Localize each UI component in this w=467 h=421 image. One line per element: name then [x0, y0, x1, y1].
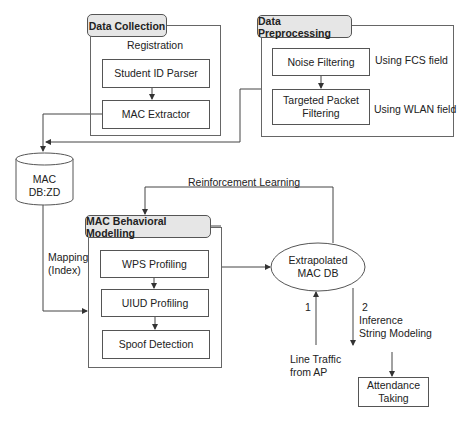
spoof-detection-box: Spoof Detection: [102, 330, 210, 359]
wlan-annotation: Using WLAN field: [374, 103, 456, 116]
mapping-label: Mapping (Index): [48, 251, 88, 277]
attendance-taking-box: Attendance Taking: [358, 377, 429, 407]
mac-behavioral-title: MAC Behavioral Modelling: [85, 215, 211, 238]
student-id-parser-box: Student ID Parser: [102, 59, 210, 88]
fcs-annotation: Using FCS field: [375, 54, 448, 67]
line-traffic-label: Line Traffic from AP: [290, 353, 341, 379]
data-collection-title: Data Collection: [87, 14, 167, 37]
mapping-line2: (Index): [48, 264, 88, 277]
line-traffic-line2: from AP: [290, 366, 341, 379]
extrapolated-mac-db-label: Extrapolated MAC DB: [271, 254, 365, 280]
mapping-line1: Mapping: [48, 251, 88, 264]
mac-db-line2: DB:ZD: [16, 186, 73, 199]
mac-db-line1: MAC: [16, 173, 73, 186]
inference-line2: String Modeling: [359, 327, 432, 340]
mac-db-label: MAC DB:ZD: [16, 173, 73, 199]
line-traffic-number: 1: [305, 301, 311, 314]
line-traffic-line1: Line Traffic: [290, 353, 341, 366]
extrapolated-line1: Extrapolated: [271, 254, 365, 267]
extrapolated-line2: MAC DB: [271, 267, 365, 280]
targeted-packet-filtering-box: Targeted Packet Filtering: [272, 89, 370, 125]
inference-number: 2: [362, 301, 368, 314]
attendance-line1: Attendance: [367, 379, 420, 392]
uiud-profiling-box: UIUD Profiling: [101, 289, 209, 317]
reinforcement-learning-label: Reinforcement Learning: [188, 176, 300, 189]
inference-label: Inference String Modeling: [359, 314, 432, 340]
attendance-line2: Taking: [378, 392, 408, 405]
mac-extractor-box: MAC Extractor: [102, 100, 210, 129]
registration-label: Registration: [120, 39, 190, 52]
inference-line1: Inference: [359, 314, 432, 327]
data-preprocessing-title: Data Preprocessing: [257, 15, 352, 38]
wps-profiling-box: WPS Profiling: [100, 250, 209, 278]
noise-filtering-box: Noise Filtering: [272, 48, 370, 76]
